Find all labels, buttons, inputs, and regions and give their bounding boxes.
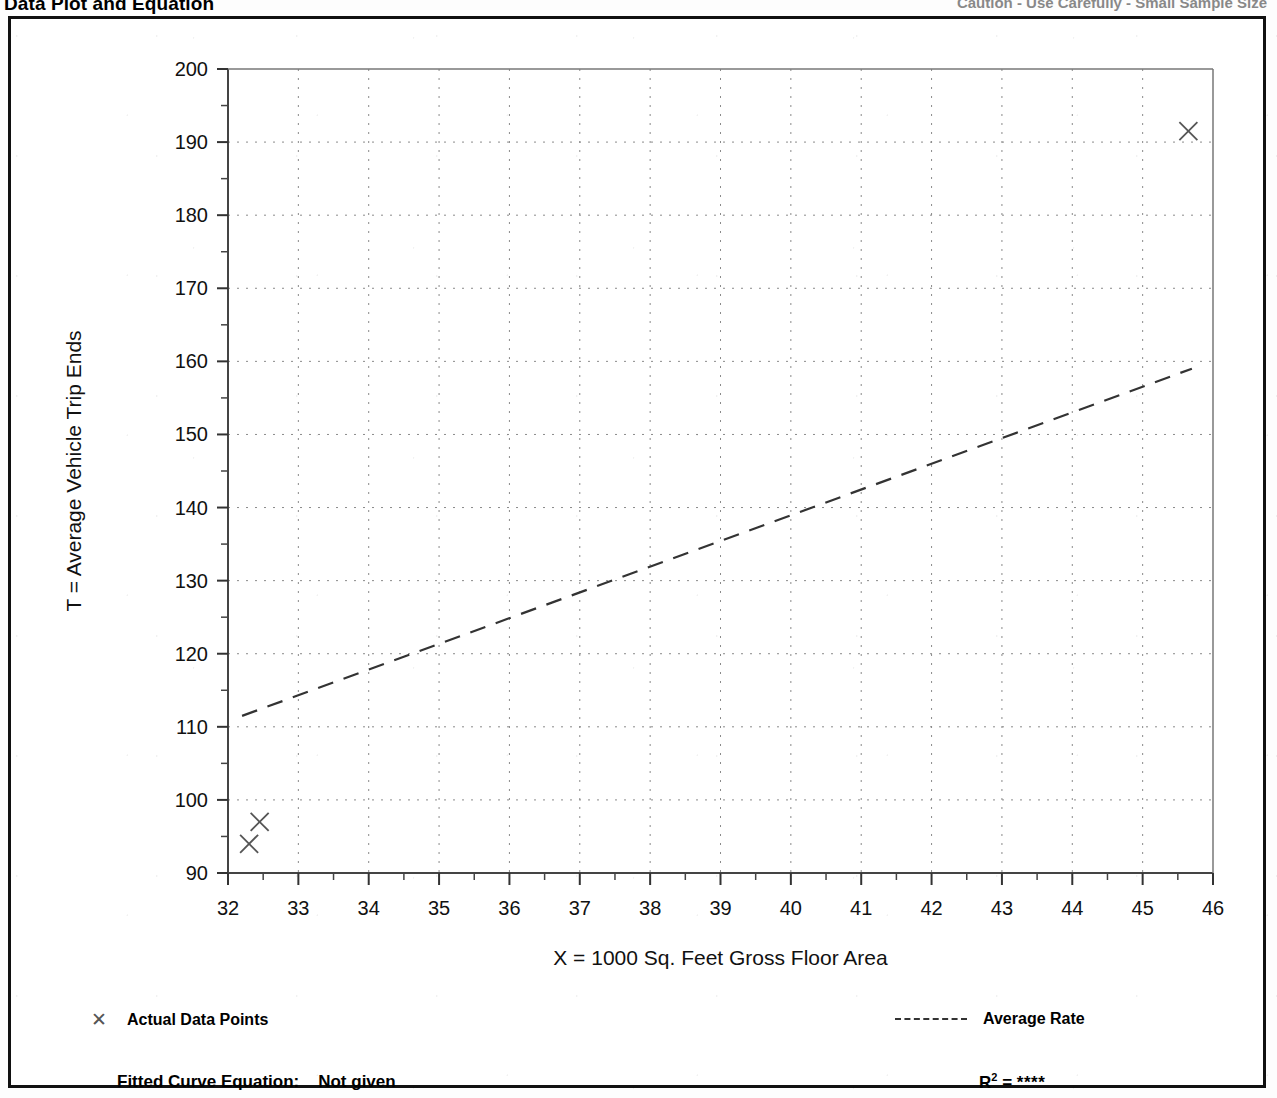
- fitted-curve-equation-label: Fitted Curve Equation:: [117, 1072, 299, 1091]
- x-axis-tick-label: 39: [709, 897, 731, 919]
- y-axis-tick-label: 130: [175, 570, 208, 592]
- y-axis-tick-label: 200: [175, 58, 208, 80]
- y-axis-tick-label: 140: [175, 497, 208, 519]
- y-axis-tick-label: 190: [175, 131, 208, 153]
- y-axis-title: T = Average Vehicle Trip Ends: [62, 330, 85, 611]
- x-axis-tick-label: 40: [780, 897, 802, 919]
- page-header: Data Plot and Equation Caution - Use Car…: [0, 0, 1277, 15]
- x-axis-tick-label: 45: [1132, 897, 1154, 919]
- y-axis-tick-label: 90: [186, 862, 208, 884]
- y-axis-tick-label: 120: [175, 643, 208, 665]
- fitted-curve-equation-value: Not given: [318, 1072, 395, 1091]
- x-axis-tick-label: 44: [1061, 897, 1083, 919]
- x-axis-tick-label: 38: [639, 897, 661, 919]
- fitted-curve-equation: Fitted Curve Equation: Not given: [117, 1072, 396, 1092]
- x-axis-tick-label: 37: [569, 897, 591, 919]
- x-axis-tick-label: 46: [1202, 897, 1224, 919]
- x-axis-tick-label: 32: [217, 897, 239, 919]
- r-squared-readout: R2 = ****: [979, 1071, 1045, 1093]
- r-squared-equals: =: [1002, 1073, 1012, 1092]
- x-axis-tick-label: 42: [920, 897, 942, 919]
- x-axis-tick-label: 36: [498, 897, 520, 919]
- y-axis-tick-label: 180: [175, 204, 208, 226]
- r-squared-exponent: 2: [991, 1071, 997, 1083]
- plot-background: [228, 69, 1213, 873]
- legend-label-average-rate: Average Rate: [983, 1010, 1085, 1028]
- chart-area: 9010011012013014015016017018019020032333…: [11, 19, 1263, 1085]
- r-squared-label: R: [979, 1073, 991, 1092]
- y-axis-tick-label: 100: [175, 789, 208, 811]
- chart-frame: 9010011012013014015016017018019020032333…: [8, 16, 1266, 1088]
- page-title: Data Plot and Equation: [4, 0, 214, 15]
- y-axis-tick-label: 170: [175, 277, 208, 299]
- legend-item-data-points: ✕ Actual Data Points: [89, 1010, 268, 1030]
- x-axis-tick-label: 43: [991, 897, 1013, 919]
- legend-label-data-points: Actual Data Points: [127, 1011, 268, 1029]
- x-axis-tick-label: 34: [358, 897, 380, 919]
- y-axis-tick-label: 110: [176, 716, 208, 738]
- chart-page: Data Plot and Equation Caution - Use Car…: [0, 0, 1277, 1098]
- x-axis-tick-label: 41: [850, 897, 872, 919]
- y-axis-tick-label: 150: [175, 423, 208, 445]
- x-axis-tick-label: 35: [428, 897, 450, 919]
- r-squared-value: ****: [1017, 1073, 1045, 1092]
- data-plot-svg: 9010011012013014015016017018019020032333…: [11, 19, 1263, 1085]
- header-caution-note: Caution - Use Carefully - Small Sample S…: [957, 0, 1267, 11]
- x-marker-icon: ✕: [89, 1010, 109, 1030]
- legend-item-average-rate: Average Rate: [895, 1010, 1085, 1028]
- y-axis-tick-label: 160: [175, 350, 208, 372]
- dashed-line-icon: [895, 1018, 967, 1020]
- x-axis-tick-label: 33: [287, 897, 309, 919]
- x-axis-title: X = 1000 Sq. Feet Gross Floor Area: [553, 946, 888, 969]
